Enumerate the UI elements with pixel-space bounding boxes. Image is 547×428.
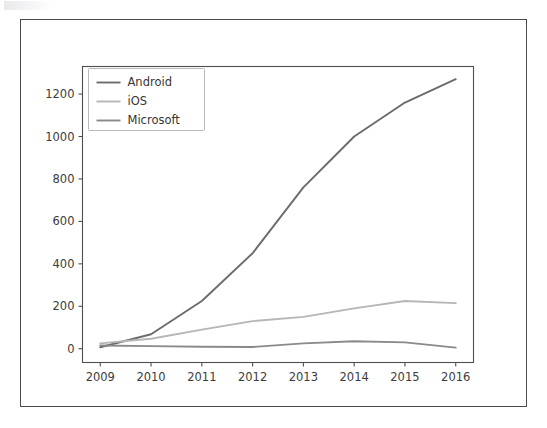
y-tick-label: 1000 — [45, 130, 74, 144]
x-tick-label: 2015 — [390, 370, 419, 384]
series-line-ios — [100, 301, 455, 343]
y-tick-label: 0 — [67, 342, 74, 356]
y-tick-label: 800 — [53, 172, 75, 186]
x-tick-label: 2016 — [441, 370, 470, 384]
chart-canvas: 0200400600800100012002009201020112012201… — [0, 0, 547, 428]
x-tick-label: 2012 — [238, 370, 267, 384]
x-tick-label: 2009 — [86, 370, 115, 384]
line-chart: 0200400600800100012002009201020112012201… — [0, 0, 547, 428]
legend-label-android: Android — [128, 75, 172, 89]
x-tick-label: 2011 — [187, 370, 216, 384]
x-tick-label: 2010 — [136, 370, 165, 384]
x-tick-label: 2013 — [289, 370, 318, 384]
y-tick-label: 600 — [53, 214, 75, 228]
x-tick-label: 2014 — [340, 370, 369, 384]
legend-label-microsoft: Microsoft — [128, 113, 181, 127]
y-tick-label: 200 — [53, 299, 75, 313]
y-tick-label: 400 — [53, 257, 75, 271]
y-tick-label: 1200 — [45, 87, 74, 101]
series-line-microsoft — [100, 341, 455, 347]
legend-label-ios: iOS — [128, 94, 148, 108]
